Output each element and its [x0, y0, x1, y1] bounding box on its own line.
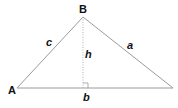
triangle-sides	[17, 17, 173, 88]
side-label-a: a	[127, 39, 133, 51]
side-a	[83, 17, 173, 88]
triangle-diagram: B A c a h b	[0, 0, 178, 108]
altitude-label-h: h	[85, 48, 92, 60]
side-label-c: c	[46, 36, 52, 48]
vertex-label-a: A	[8, 84, 16, 96]
side-c	[17, 17, 83, 88]
side-label-b: b	[83, 91, 90, 103]
right-angle-marker	[83, 83, 88, 88]
vertex-label-b: B	[79, 3, 87, 15]
